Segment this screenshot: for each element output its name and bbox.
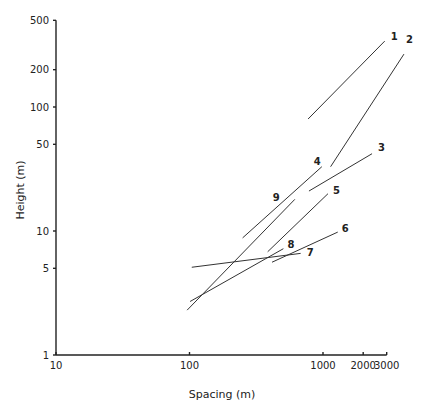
line-labels: 123456789	[273, 31, 413, 258]
axes: 10100100020003000151050100200500	[30, 15, 400, 371]
data-line-6	[272, 232, 338, 262]
y-tick-label: 10	[36, 226, 49, 237]
y-tick-label: 5	[43, 263, 49, 274]
line-label-1: 1	[391, 31, 398, 42]
line-label-8: 8	[287, 239, 294, 250]
data-line-9	[187, 199, 295, 310]
x-tick-label: 2000	[350, 360, 375, 371]
line-label-7: 7	[307, 247, 314, 258]
data-line-8	[190, 249, 283, 302]
data-line-7	[192, 253, 301, 267]
line-label-5: 5	[333, 185, 340, 196]
y-tick-label: 200	[30, 64, 49, 75]
y-tick-label: 50	[36, 139, 49, 150]
line-label-9: 9	[273, 192, 280, 203]
y-tick-label: 100	[30, 102, 49, 113]
y-tick-label: 500	[30, 15, 49, 26]
line-label-3: 3	[378, 142, 385, 153]
data-lines	[187, 41, 404, 310]
x-tick-label: 100	[180, 360, 199, 371]
x-tick-label: 1000	[310, 360, 335, 371]
y-tick-label: 1	[43, 350, 49, 361]
x-tick-label: 3000	[374, 360, 399, 371]
line-label-4: 4	[314, 156, 321, 167]
data-line-4	[243, 167, 322, 238]
x-axis-title: Spacing (m)	[189, 388, 256, 401]
line-label-2: 2	[406, 34, 413, 45]
data-line-1	[308, 41, 385, 119]
x-tick-label: 10	[50, 360, 63, 371]
chart: 10100100020003000151050100200500 1234567…	[0, 0, 425, 412]
y-axis-title: Height (m)	[14, 160, 27, 219]
line-label-6: 6	[342, 223, 349, 234]
data-line-2	[331, 54, 404, 167]
